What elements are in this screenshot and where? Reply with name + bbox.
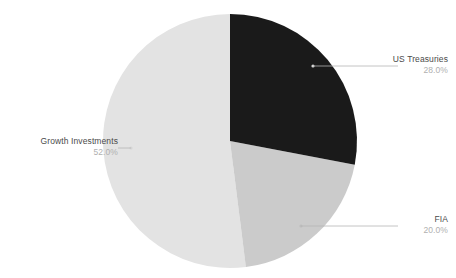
pie-slice-growth-investments[interactable]: [103, 14, 246, 268]
callout-us-treasuries[interactable]: US Treasuries 28.0%: [393, 55, 448, 75]
callout-label-growth-investments: Growth Investments: [0, 137, 118, 146]
callout-percent-growth-investments: 52.0%: [0, 148, 118, 157]
callout-label-fia: FIA: [423, 215, 448, 224]
pie-slice-us-treasuries[interactable]: [230, 14, 357, 165]
callout-label-us-treasuries: US Treasuries: [393, 55, 448, 64]
pie-chart: US Treasuries 28.0% FIA 20.0% Growth Inv…: [0, 0, 456, 278]
callout-percent-us-treasuries: 28.0%: [393, 66, 448, 75]
callout-growth-investments[interactable]: Growth Investments 52.0%: [0, 137, 118, 157]
callout-fia[interactable]: FIA 20.0%: [423, 215, 448, 235]
callout-percent-fia: 20.0%: [423, 226, 448, 235]
